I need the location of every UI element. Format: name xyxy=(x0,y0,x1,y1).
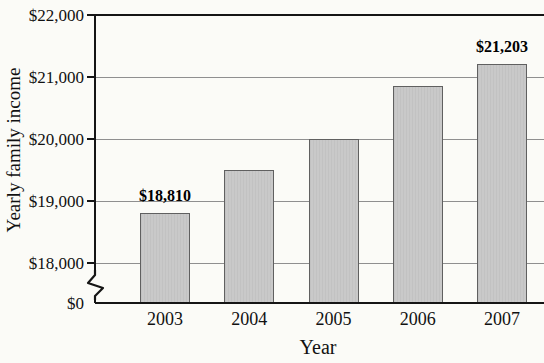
y-tick-label: $19,000 xyxy=(0,193,84,210)
bar-value-label-2003: $18,810 xyxy=(139,187,191,205)
y-axis-break-icon xyxy=(85,270,107,300)
y-tick-label: $0 xyxy=(0,295,84,312)
x-tick-label-2004: 2004 xyxy=(231,310,267,328)
bar-2003 xyxy=(140,213,190,303)
bar-value-label-2007: $21,203 xyxy=(476,38,528,56)
y-tick xyxy=(87,138,96,140)
x-axis-line xyxy=(95,302,544,304)
y-tick-label: $21,000 xyxy=(0,69,84,86)
bar-2006 xyxy=(393,86,443,303)
plot-top-border xyxy=(95,14,544,16)
bar-2004 xyxy=(224,170,274,303)
y-tick xyxy=(87,14,96,16)
y-tick xyxy=(87,262,96,264)
x-tick-label-2006: 2006 xyxy=(400,310,436,328)
y-axis-line-upper xyxy=(94,14,96,274)
bar-chart: Yearly family income 2003200420052006200… xyxy=(0,0,544,363)
x-tick-label-2005: 2005 xyxy=(316,310,352,328)
y-tick xyxy=(87,200,96,202)
y-tick-label: $18,000 xyxy=(0,255,84,272)
bar-2005 xyxy=(309,139,359,303)
y-tick-label: $22,000 xyxy=(0,7,84,24)
y-tick-label: $20,000 xyxy=(0,131,84,148)
y-tick xyxy=(87,76,96,78)
bar-2007 xyxy=(477,64,527,303)
plot-area: 20032004200520062007$0$18,000$19,000$20,… xyxy=(0,0,544,363)
x-tick-label-2003: 2003 xyxy=(147,310,183,328)
x-axis-title: Year xyxy=(300,336,337,359)
x-tick-label-2007: 2007 xyxy=(484,310,520,328)
